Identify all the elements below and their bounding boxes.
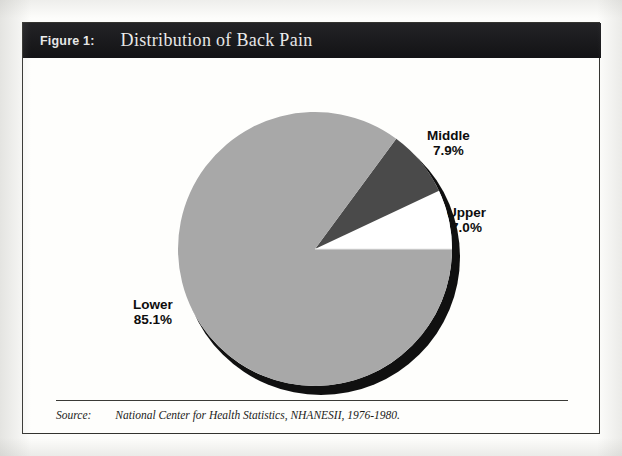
source-text: National Center for Health Statistics, N… [115, 409, 400, 421]
pie-chart: Middle 7.9% Upper 7.0% Lower 85.1% [23, 58, 601, 398]
pie-label-lower-name: Lower [133, 297, 173, 312]
pie-label-middle-name: Middle [427, 128, 470, 143]
figure-frame: Figure 1: Distribution of Back Pain [22, 22, 600, 434]
figure-title-bar: Figure 1: Distribution of Back Pain [23, 23, 601, 58]
pie-label-lower: Lower 85.1% [133, 298, 173, 327]
pie-label-upper-name: Upper [447, 205, 486, 220]
source-divider [56, 400, 568, 401]
source-label: Source: [56, 409, 91, 421]
pie-label-upper: Upper 7.0% [447, 206, 486, 235]
scanned-page: Figure 1: Distribution of Back Pain [0, 0, 622, 456]
figure-number-label: Figure 1: [40, 34, 95, 48]
pie-label-upper-value: 7.0% [447, 221, 486, 236]
pie-label-middle: Middle 7.9% [427, 129, 470, 158]
pie-label-middle-value: 7.9% [427, 144, 470, 159]
source-note: Source: National Center for Health Stati… [56, 409, 576, 421]
pie-label-lower-value: 85.1% [133, 313, 173, 328]
pie-chart-graphic [23, 58, 601, 398]
figure-title: Distribution of Back Pain [121, 30, 313, 51]
